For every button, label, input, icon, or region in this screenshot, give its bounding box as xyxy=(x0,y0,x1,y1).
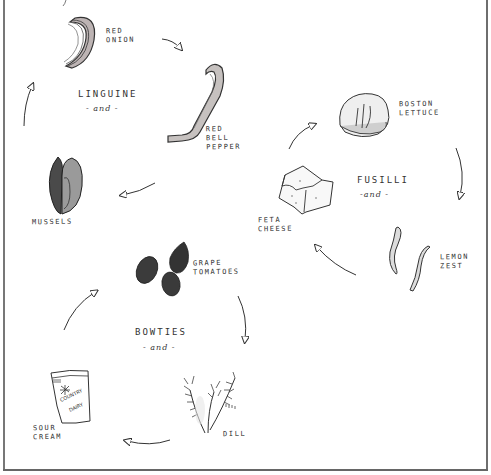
pasta-title-bowties: BOWTIES xyxy=(135,327,187,337)
red-onion-slice-icon xyxy=(64,17,95,68)
ingredient-label-feta-cheese: FETA CHEESE xyxy=(258,216,293,235)
ingredient-label-grape-tomatoes: GRAPE TOMATOES xyxy=(193,259,240,278)
pasta-connector-linguine: - and - xyxy=(86,104,119,113)
arrow-mussels-to-onion xyxy=(24,86,32,126)
pasta-connector-bowties: - and - xyxy=(143,343,176,352)
ingredient-label-red-bell-pepper: RED BELL PEPPER xyxy=(206,125,241,153)
feta-cheese-block-icon xyxy=(279,166,333,214)
ingredient-label-boston-lettuce: BOSTON LETTUCE xyxy=(399,100,440,119)
ingredient-label-sour-cream: SOUR CREAM xyxy=(33,424,62,443)
arrow-feta-to-lettuce xyxy=(289,125,313,149)
dill-sprig-icon xyxy=(184,372,235,433)
sour-cream-tub-icon: COUNTRY DAIRY xyxy=(51,370,90,423)
arrow-dill-to-sourcream xyxy=(127,440,170,444)
arrow-onion-to-pepper xyxy=(162,39,180,48)
illustration-canvas: COUNTRY DAIRY xyxy=(0,0,491,475)
arrow-pepper-to-mussels xyxy=(123,183,155,195)
stray-mark xyxy=(63,0,66,6)
ingredient-label-lemon-zest: LEMON ZEST xyxy=(440,253,469,272)
ingredient-label-dill: DILL xyxy=(223,430,246,439)
ingredient-label-mussels: MUSSELS xyxy=(32,218,73,228)
lemon-zest-icon xyxy=(390,227,430,291)
grape-tomatoes-icon xyxy=(132,242,188,297)
arrow-sourcream-to-tomatoes xyxy=(64,292,95,330)
lettuce-leaf-icon xyxy=(340,94,389,137)
pasta-connector-fusilli: -and - xyxy=(360,190,389,199)
arrow-tomatoes-to-dill xyxy=(238,296,246,340)
arrow-zest-to-feta xyxy=(317,247,356,275)
ingredient-label-red-onion: RED ONION xyxy=(106,27,135,46)
arrow-lettuce-to-zest xyxy=(456,148,462,196)
pasta-title-fusilli: FUSILLI xyxy=(357,175,409,185)
pasta-title-linguine: LINGUINE xyxy=(78,89,137,99)
mussel-shell-icon xyxy=(49,157,82,214)
